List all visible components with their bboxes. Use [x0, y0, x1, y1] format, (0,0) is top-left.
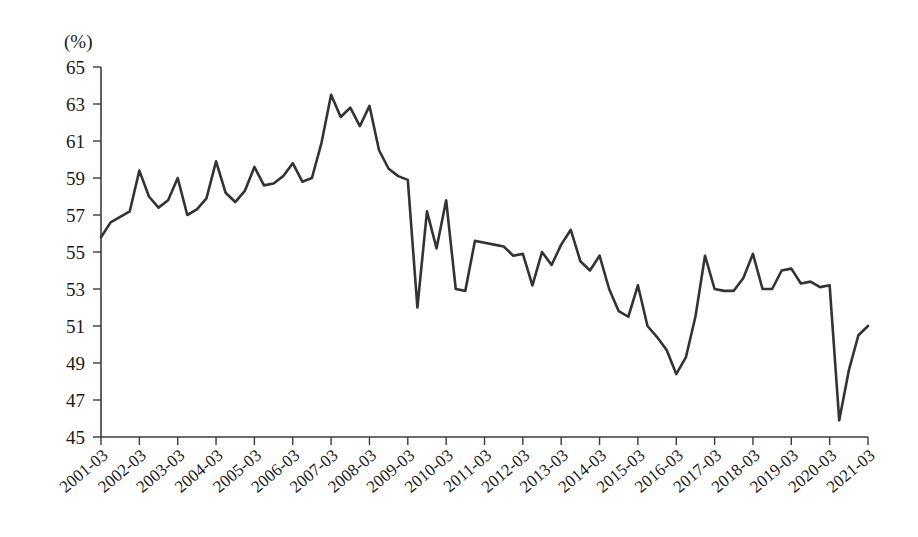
y-tick-label: 53	[66, 279, 85, 300]
y-tick-label: 49	[66, 353, 85, 374]
y-tick-label: 61	[66, 131, 85, 152]
y-tick-label: 47	[66, 390, 85, 411]
chart-page: (%)45474951535557596163652001-032002-032…	[0, 0, 918, 537]
y-tick-label: 57	[66, 205, 85, 226]
data-series-line	[101, 95, 868, 421]
y-tick-label: 63	[66, 94, 85, 115]
y-tick-label: 55	[66, 242, 85, 263]
y-tick-label: 59	[66, 168, 85, 189]
y-tick-label: 51	[66, 316, 85, 337]
line-chart: (%)45474951535557596163652001-032002-032…	[0, 0, 918, 537]
y-tick-label: 45	[66, 427, 85, 448]
unit-label: (%)	[64, 31, 92, 53]
y-tick-label: 65	[66, 57, 85, 78]
